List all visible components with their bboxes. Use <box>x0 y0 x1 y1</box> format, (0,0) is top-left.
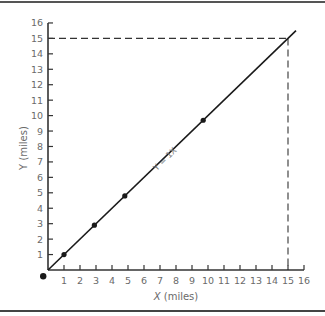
y-tick-label: 16 <box>31 17 43 28</box>
x-tick-label: 16 <box>298 275 310 286</box>
chart-canvas: 1234567891011121314151612345678910111213… <box>0 0 325 316</box>
x-tick-label: 1 <box>61 275 67 286</box>
x-tick-label: 3 <box>93 275 99 286</box>
y-tick-label: 13 <box>31 64 43 75</box>
y-tick-label: 14 <box>31 48 43 59</box>
y-tick-label: 7 <box>37 156 43 167</box>
origin-marker <box>40 273 46 279</box>
x-tick-label: 10 <box>202 275 214 286</box>
data-point <box>201 118 206 123</box>
y-tick-label: 6 <box>37 172 43 183</box>
y-tick-label: 12 <box>31 79 43 90</box>
y-axis-title: Y (miles) <box>18 126 29 171</box>
y-tick-label: 2 <box>37 234 43 245</box>
line-equation-label: Y = 1X <box>150 145 178 173</box>
y-tick-label: 4 <box>37 203 43 214</box>
y-tick-label: 5 <box>37 187 43 198</box>
x-tick-label: 8 <box>173 275 179 286</box>
y-tick-label: 1 <box>37 249 43 260</box>
y-tick-label: 11 <box>31 95 43 106</box>
x-tick-label: 11 <box>218 275 230 286</box>
data-point <box>122 193 127 198</box>
x-tick-label: 7 <box>157 275 163 286</box>
x-tick-label: 12 <box>234 275 246 286</box>
x-tick-label: 5 <box>125 275 131 286</box>
x-tick-label: 13 <box>250 275 262 286</box>
y-tick-label: 10 <box>31 110 43 121</box>
y-tick-label: 15 <box>31 33 43 44</box>
y-tick-label: 3 <box>37 218 43 229</box>
x-tick-label: 2 <box>77 275 83 286</box>
x-tick-label: 14 <box>266 275 278 286</box>
x-axis-title: X (miles) <box>153 291 199 302</box>
y-tick-label: 9 <box>37 126 43 137</box>
x-axis-unit: (miles) <box>161 291 199 302</box>
x-tick-label: 6 <box>141 275 147 286</box>
data-point <box>61 252 66 257</box>
y-tick-label: 8 <box>37 141 43 152</box>
x-tick-label: 15 <box>282 275 294 286</box>
data-point <box>92 223 97 228</box>
x-tick-label: 9 <box>189 275 195 286</box>
x-tick-label: 4 <box>109 275 115 286</box>
